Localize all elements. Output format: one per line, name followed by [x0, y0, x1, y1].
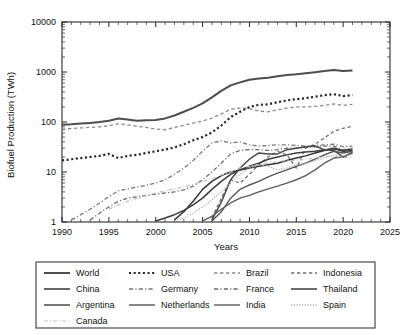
x-tick-label: 2025	[380, 227, 400, 237]
x-tick-label: 2015	[286, 227, 306, 237]
legend-label-thailand: Thailand	[323, 284, 358, 294]
series-layer	[62, 70, 353, 221]
chart-page: 1990199520002005201020152020202511010010…	[0, 0, 411, 335]
y-axis-title: Biofuel Production (TWh)	[5, 72, 16, 178]
series-line-thailand	[156, 149, 353, 221]
y-tick-label: 10000	[31, 17, 56, 27]
x-tick-label: 2020	[333, 227, 353, 237]
y-tick-label: 10	[46, 167, 56, 177]
x-tick-label: 2000	[146, 227, 166, 237]
biofuel-production-line-chart: 1990199520002005201020152020202511010010…	[0, 0, 411, 335]
series-line-usa	[62, 94, 353, 160]
legend-label-france: France	[246, 284, 274, 294]
legend-label-india: India	[246, 300, 266, 310]
legend-label-brazil: Brazil	[246, 268, 269, 278]
legend-label-germany: Germany	[161, 284, 199, 294]
series-line-world	[62, 70, 353, 125]
chart-legend: WorldUSABrazilIndonesiaChinaGermanyFranc…	[36, 262, 375, 328]
x-tick-label: 1990	[52, 227, 72, 237]
y-tick-label: 100	[41, 117, 56, 127]
x-tick-label: 1995	[99, 227, 119, 237]
y-tick-label: 1000	[36, 67, 56, 77]
x-axis-title: Years	[214, 241, 238, 252]
legend-label-world: World	[76, 268, 99, 278]
legend-label-china: China	[76, 284, 100, 294]
y-tick-label: 1	[51, 217, 56, 227]
legend-label-indonesia: Indonesia	[323, 268, 362, 278]
legend-label-spain: Spain	[323, 300, 346, 310]
x-tick-label: 2005	[193, 227, 213, 237]
legend-label-netherlands: Netherlands	[161, 300, 210, 310]
series-line-spain	[174, 154, 352, 221]
x-tick-label: 2010	[239, 227, 259, 237]
series-line-brazil	[62, 104, 353, 130]
series-line-china	[174, 148, 352, 220]
series-line-germany	[71, 141, 352, 220]
legend-label-argentina: Argentina	[76, 300, 115, 310]
series-line-argentina	[212, 146, 353, 220]
legend-label-canada: Canada	[76, 316, 108, 326]
legend-label-usa: USA	[161, 268, 180, 278]
